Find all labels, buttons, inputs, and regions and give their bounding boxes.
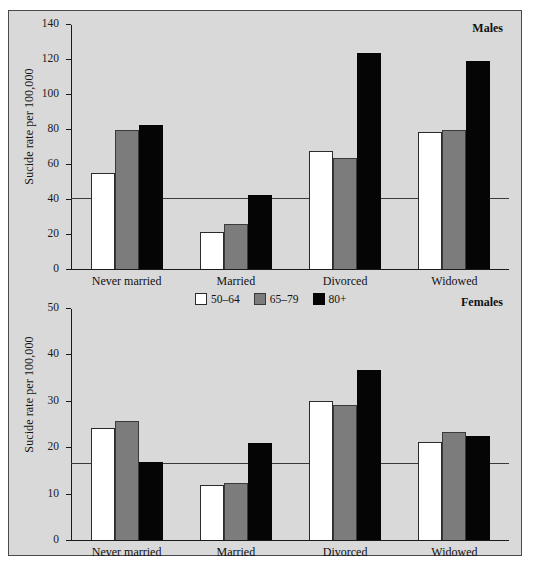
- bar: [442, 432, 466, 540]
- legend-swatch-icon: [254, 293, 266, 305]
- y-tick-label: 0: [53, 263, 59, 275]
- bar: [248, 443, 272, 540]
- y-axis-label-females: Sucide rate per 100,000: [22, 315, 37, 475]
- y-tick-label: 30: [48, 395, 60, 407]
- y-tick-label: 120: [42, 53, 59, 65]
- y-tick-label: 0: [53, 534, 59, 546]
- y-axis-label-males: Sucide rate per 100,000: [22, 47, 37, 207]
- y-tick: 20: [66, 447, 71, 448]
- bar: [418, 442, 442, 540]
- bar: [357, 370, 381, 540]
- y-tick-label: 10: [48, 488, 60, 500]
- bar: [91, 173, 115, 269]
- plot-area-females: 01020304050 Never marriedMarriedDivorced…: [71, 309, 509, 541]
- bar-group: Never married: [72, 309, 181, 540]
- bar: [466, 436, 490, 540]
- y-tick: 0: [66, 269, 71, 270]
- legend-label: 50–64: [211, 293, 240, 305]
- y-tick: 40: [66, 354, 71, 355]
- category-label: Widowed: [431, 545, 477, 560]
- bar-groups-males: Never marriedMarriedDivorcedWidowed: [72, 25, 509, 269]
- chart-panel-males: 020406080100120140 Never marriedMarriedD…: [9, 11, 521, 287]
- bar: [115, 130, 139, 269]
- y-tick-label: 50: [48, 302, 60, 314]
- bar: [466, 61, 490, 269]
- legend-65-79: 65–79: [254, 293, 299, 305]
- panel-title-females: Females: [461, 295, 503, 310]
- y-tick-label: 40: [48, 193, 60, 205]
- legend-swatch-icon: [313, 293, 325, 305]
- legend-label: 80+: [329, 293, 347, 305]
- bar: [309, 401, 333, 540]
- bar-cluster: [200, 25, 272, 269]
- y-tick-label: 20: [48, 441, 60, 453]
- y-tick-label: 80: [48, 123, 60, 135]
- bar-group: Married: [181, 309, 290, 540]
- category-label: Married: [217, 545, 256, 560]
- y-tick-label: 40: [48, 349, 60, 361]
- y-tick: 0: [66, 540, 71, 541]
- bar: [248, 195, 272, 269]
- bar-group: Widowed: [400, 309, 509, 540]
- bar: [333, 405, 357, 540]
- bar-cluster: [418, 25, 490, 269]
- bar-cluster: [309, 309, 381, 540]
- bar: [115, 421, 139, 540]
- y-tick: 120: [66, 59, 71, 60]
- bar: [139, 462, 163, 540]
- bar: [91, 428, 115, 540]
- bar: [200, 485, 224, 540]
- bar-group: Widowed: [400, 25, 509, 269]
- bar-group: Divorced: [291, 25, 400, 269]
- y-tick: 10: [66, 494, 71, 495]
- bar-cluster: [309, 25, 381, 269]
- y-tick-label: 100: [42, 88, 59, 100]
- legend: 50–6465–7980+: [195, 293, 347, 305]
- y-tick: 30: [66, 401, 71, 402]
- bar-cluster: [91, 309, 163, 540]
- x-axis-females: [71, 540, 509, 541]
- legend-swatch-icon: [195, 293, 207, 305]
- y-tick: 60: [66, 164, 71, 165]
- bar-cluster: [200, 309, 272, 540]
- y-tick: 100: [66, 94, 71, 95]
- y-tick: 40: [66, 199, 71, 200]
- y-tick: 80: [66, 129, 71, 130]
- y-tick-label: 140: [42, 18, 59, 30]
- bar-cluster: [91, 25, 163, 269]
- bar: [224, 483, 248, 540]
- bar: [442, 130, 466, 269]
- bar-group: Married: [181, 25, 290, 269]
- y-tick-label: 20: [48, 228, 60, 240]
- bar-group: Divorced: [291, 309, 400, 540]
- legend-80-plus: 80+: [313, 293, 347, 305]
- bar: [200, 232, 224, 269]
- bar-group: Never married: [72, 25, 181, 269]
- figure-frame: 020406080100120140 Never marriedMarriedD…: [8, 10, 522, 556]
- bar-groups-females: Never marriedMarriedDivorcedWidowed: [72, 309, 509, 540]
- x-axis-males: [71, 269, 509, 270]
- y-tick: 140: [66, 24, 71, 25]
- bar: [309, 151, 333, 270]
- panel-title-males: Males: [472, 21, 503, 36]
- legend-50-64: 50–64: [195, 293, 240, 305]
- bar: [333, 158, 357, 269]
- bar: [224, 224, 248, 269]
- y-tick: 50: [66, 308, 71, 309]
- chart-panel-females: 50–6465–7980+ 01020304050 Never marriedM…: [9, 287, 521, 555]
- legend-label: 65–79: [270, 293, 299, 305]
- y-tick: 20: [66, 234, 71, 235]
- bar: [357, 53, 381, 269]
- category-label: Divorced: [323, 545, 368, 560]
- plot-area-males: 020406080100120140 Never marriedMarriedD…: [71, 25, 509, 270]
- bar: [139, 125, 163, 269]
- category-label: Never married: [92, 545, 162, 560]
- bar-cluster: [418, 309, 490, 540]
- bar: [418, 132, 442, 269]
- y-tick-label: 60: [48, 158, 60, 170]
